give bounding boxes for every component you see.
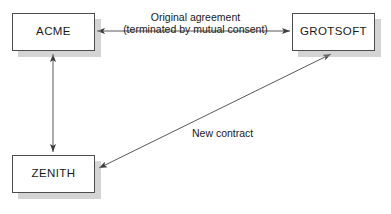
- edge-zenith-grotsoft: [99, 54, 331, 168]
- edge-label-original-agreement-line2: (terminated by mutual consent): [117, 23, 274, 35]
- edge-label-new-contract: New contract: [192, 127, 253, 139]
- node-acme-label: ACME: [36, 26, 71, 38]
- edge-label-new-contract-line1: New contract: [192, 127, 253, 139]
- edge-label-original-agreement: Original agreement (terminated by mutual…: [117, 11, 274, 35]
- node-grotsoft-label: GROTSOFT: [300, 26, 367, 38]
- edge-label-original-agreement-line1: Original agreement: [117, 11, 274, 23]
- diagram-canvas: ACME GROTSOFT ZENITH Original agreement …: [0, 0, 391, 214]
- node-acme[interactable]: ACME: [12, 13, 95, 51]
- node-zenith[interactable]: ZENITH: [12, 155, 95, 193]
- node-grotsoft[interactable]: GROTSOFT: [292, 13, 375, 51]
- node-zenith-label: ZENITH: [32, 168, 76, 180]
